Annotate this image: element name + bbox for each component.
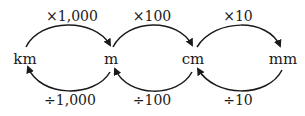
unit-mm: mm [269,51,297,67]
arrow-m-to-km [28,67,110,91]
unit-cm: cm [182,51,205,67]
label-mm-to-cm: ÷10 [223,92,253,108]
label-cm-to-m: ÷100 [133,92,171,108]
label-km-to-m: ×1,000 [46,8,98,24]
unit-m: m [104,51,118,67]
unit-km: km [13,51,36,67]
arrow-mm-to-cm [198,69,282,91]
label-cm-to-mm: ×10 [223,8,253,24]
label-m-to-cm: ×100 [133,8,171,24]
arrow-cm-to-m [115,69,192,91]
label-m-to-km: ÷1,000 [44,92,96,108]
arrow-km-to-m [26,25,110,47]
arrow-m-to-cm [113,25,192,47]
arrow-cm-to-mm [197,25,280,47]
